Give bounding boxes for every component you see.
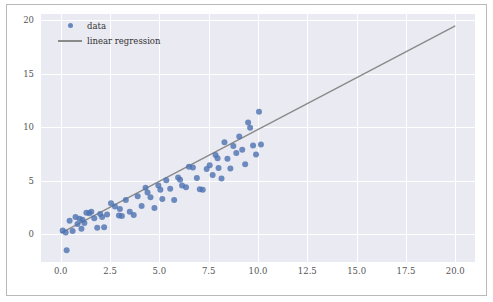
chart-legend: data linear regression bbox=[53, 18, 183, 48]
scatter-point bbox=[163, 177, 169, 183]
x-tick-label: 7.5 bbox=[202, 266, 216, 276]
scatter-point bbox=[247, 125, 253, 131]
x-tick-label: 20.0 bbox=[446, 266, 465, 276]
scatter-point bbox=[256, 109, 262, 115]
y-tick-label: 0 bbox=[34, 229, 39, 239]
scatter-point bbox=[233, 150, 239, 156]
chart-figure: 05101520 0.02.55.07.510.012.515.017.520.… bbox=[0, 0, 493, 302]
scatter-point bbox=[78, 226, 84, 232]
scatter-point bbox=[250, 142, 256, 148]
scatter-point bbox=[135, 193, 141, 199]
legend-item-linear-regression: linear regression bbox=[53, 33, 183, 48]
scatter-point bbox=[79, 217, 85, 223]
scatter-point bbox=[221, 139, 227, 145]
scatter-point bbox=[123, 197, 129, 203]
x-tick-label: 15.0 bbox=[347, 266, 366, 276]
scatter-point bbox=[230, 143, 236, 149]
scatter-point bbox=[183, 184, 189, 190]
x-tick-label: 0.0 bbox=[54, 266, 68, 276]
scatter-point bbox=[64, 247, 70, 253]
scatter-point bbox=[239, 147, 245, 153]
legend-label-linear-regression: linear regression bbox=[87, 36, 160, 46]
x-tick-label: 17.5 bbox=[396, 266, 415, 276]
scatter-point bbox=[242, 161, 248, 167]
scatter-point bbox=[99, 214, 105, 220]
scatter-point bbox=[210, 172, 216, 178]
legend-item-data: data bbox=[53, 18, 183, 33]
legend-label-data: data bbox=[87, 21, 106, 31]
scatter-point bbox=[157, 187, 163, 193]
scatter-point bbox=[194, 175, 200, 181]
scatter-point bbox=[75, 221, 81, 227]
scatter-point bbox=[145, 190, 151, 196]
linear-regression-line bbox=[61, 26, 456, 233]
scatter-point bbox=[236, 133, 242, 139]
x-tick-label: 10.0 bbox=[249, 266, 268, 276]
scatter-point bbox=[215, 155, 221, 161]
scatter-point bbox=[101, 224, 107, 230]
legend-line-icon bbox=[53, 40, 87, 42]
x-tick-label: 2.5 bbox=[103, 266, 117, 276]
scatter-point bbox=[67, 218, 73, 224]
scatter-point bbox=[70, 228, 76, 234]
scatter-point bbox=[200, 187, 206, 193]
scatter-point bbox=[207, 162, 213, 168]
scatter-points-group bbox=[60, 109, 264, 253]
x-tick-label: 12.5 bbox=[298, 266, 317, 276]
scatter-point bbox=[227, 165, 233, 171]
scatter-point bbox=[258, 141, 264, 147]
plot-canvas bbox=[41, 14, 475, 262]
scatter-point bbox=[219, 176, 225, 182]
scatter-point bbox=[216, 165, 222, 171]
scatter-point bbox=[91, 215, 97, 221]
scatter-point bbox=[224, 156, 230, 162]
legend-dot-icon bbox=[53, 23, 87, 28]
x-tick-label: 5.0 bbox=[153, 266, 167, 276]
scatter-point bbox=[139, 203, 145, 209]
scatter-point bbox=[253, 152, 259, 158]
scatter-point bbox=[63, 230, 69, 236]
scatter-point bbox=[117, 206, 123, 212]
scatter-point bbox=[171, 197, 177, 203]
scatter-point bbox=[151, 205, 157, 211]
scatter-point bbox=[94, 225, 100, 231]
scatter-point bbox=[190, 164, 196, 170]
scatter-point bbox=[245, 120, 251, 126]
scatter-point bbox=[119, 213, 125, 219]
scatter-point bbox=[167, 186, 173, 192]
plot-area: data linear regression bbox=[41, 14, 475, 262]
scatter-point bbox=[159, 196, 165, 202]
scatter-point bbox=[88, 209, 94, 215]
scatter-point bbox=[177, 177, 183, 183]
scatter-point bbox=[131, 212, 137, 218]
y-tick-label: 5 bbox=[34, 176, 39, 186]
